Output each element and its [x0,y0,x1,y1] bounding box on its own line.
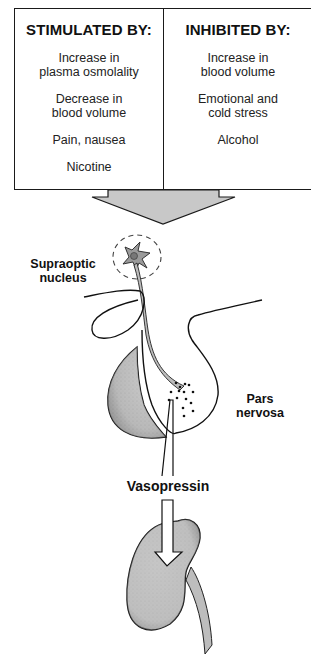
vasopressin-label: Vasopressin [118,479,218,493]
down-arrow-icon [92,190,235,224]
vasopressin-arrow-icon [162,400,173,476]
pars-nervosa-label: Pars nervosa [230,392,290,420]
supraoptic-nucleus-label: Supraoptic nucleus [18,257,108,285]
diagram-artwork [0,0,311,668]
